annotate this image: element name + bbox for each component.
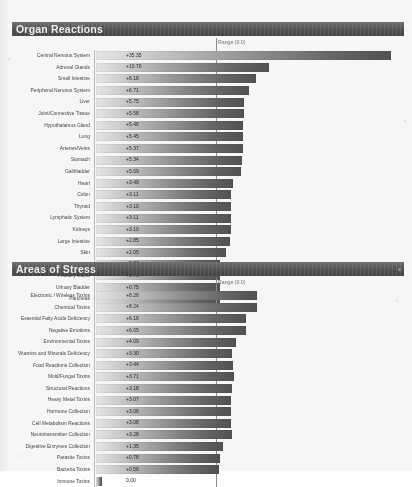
bar-track: +3.10 (96, 202, 404, 211)
bar-track: +3.71 (96, 372, 404, 381)
value-label: +5.58 (126, 111, 139, 117)
chart-row: Chemical Toxins+8.24 (12, 302, 404, 314)
value-bar (96, 396, 231, 405)
bar-track: +3.11 (96, 190, 404, 199)
value-label: +3.18 (126, 386, 139, 392)
range-caption: Range (0.0) (218, 279, 245, 285)
value-bar (96, 442, 223, 451)
bar-track: +2.05 (96, 248, 404, 257)
chart-row: Hormone Collection+3.06 (12, 406, 404, 418)
category-label: Digestive Enzymes Collection (12, 443, 90, 450)
chart-row: Skin+2.05 (12, 247, 404, 259)
bar-track: +10.70 (96, 63, 404, 72)
value-label: +2.05 (126, 250, 139, 256)
section-title: Areas of Stress (16, 262, 96, 276)
bar-track: +3.08 (96, 419, 404, 428)
category-label: Lung (12, 133, 90, 140)
chart-row: Liver+5.75 (12, 96, 404, 108)
value-label: +3.11 (126, 215, 139, 221)
value-bar (96, 361, 233, 370)
chart-row: Kidneys+3.10 (12, 224, 404, 236)
value-bar (96, 144, 243, 153)
stress-range-row: Range (0.0) (12, 278, 404, 290)
category-label: Food Reactions Collection (12, 362, 90, 369)
category-label: Chemical Toxins (12, 304, 90, 311)
category-label: Structural Reactions (12, 385, 90, 392)
value-bar (96, 291, 257, 300)
bar-track: +3.07 (96, 396, 404, 405)
category-label: Neurotransmitter Collection (12, 431, 90, 438)
category-label: Lymphatic System (12, 214, 90, 221)
bar-track: +8.24 (96, 303, 404, 312)
bar-track: +3.10 (96, 225, 404, 234)
chart-row: Central Nervous System+35.35 (12, 50, 404, 62)
category-label: Electronic / Wireless Toxins (12, 292, 90, 299)
scan-speck (396, 300, 398, 302)
value-bar (96, 86, 249, 95)
value-label: +4.09 (126, 339, 139, 345)
value-bar (96, 121, 243, 130)
category-label: Skin (12, 249, 90, 256)
areas-of-stress-section: Areas of Stress Range (0.0) Electronic /… (0, 262, 412, 487)
bar-track: +4.09 (96, 338, 404, 347)
chart-row: Essential Fatty Acids Deficiency+6.16 (12, 313, 404, 325)
value-label: +1.35 (126, 444, 139, 450)
chart-row: Mold/Fungal Toxins+3.71 (12, 371, 404, 383)
chart-row: Colon+3.11 (12, 189, 404, 201)
value-label: +3.28 (126, 432, 139, 438)
value-bar (96, 326, 246, 335)
bar-track: +5.75 (96, 98, 404, 107)
category-label: Negative Emotions (12, 327, 90, 334)
bar-track: +3.11 (96, 214, 404, 223)
category-label: Hormone Collection (12, 408, 90, 415)
organ-reactions-header: Organ Reactions (12, 22, 404, 36)
chart-row: Thyroid+3.10 (12, 201, 404, 213)
value-label: +3.10 (126, 227, 139, 233)
value-bar (96, 202, 231, 211)
value-bar (96, 74, 256, 83)
value-label: +8.26 (126, 293, 139, 299)
value-label: +5.45 (126, 134, 139, 140)
chart-row: Lung+5.45 (12, 131, 404, 143)
bar-track: +1.35 (96, 442, 404, 451)
value-label: +3.11 (126, 192, 139, 198)
value-bar (96, 156, 242, 165)
category-label: Peripheral Nervous System (12, 87, 90, 94)
value-bar (96, 314, 246, 323)
value-label: +5.09 (126, 169, 139, 175)
section-title: Organ Reactions (16, 22, 103, 36)
value-label: +3.07 (126, 397, 139, 403)
range-caption: Range (0.0) (218, 39, 245, 45)
chart-row: Environmental Toxins+4.09 (12, 336, 404, 348)
value-label: +5.34 (126, 157, 139, 163)
category-label: Bacteria Toxins (12, 466, 90, 473)
bar-track: +5.34 (96, 156, 404, 165)
chart-row: Heavy Metal Toxins+3.07 (12, 394, 404, 406)
scan-speck (398, 268, 401, 271)
value-bar (96, 214, 231, 223)
chart-row: Heart+3.49 (12, 178, 404, 190)
bar-track: +6.71 (96, 86, 404, 95)
value-bar (96, 98, 244, 107)
bar-track: +5.45 (96, 132, 404, 141)
value-label: +8.24 (126, 304, 139, 310)
value-bar (96, 372, 234, 381)
value-bar (96, 190, 231, 199)
category-label: Parasite Toxins (12, 454, 90, 461)
chart-row: Structural Reactions+3.18 (12, 383, 404, 395)
scan-speck (18, 455, 20, 457)
chart-row: Negative Emotions+6.05 (12, 325, 404, 337)
category-label: Thyroid (12, 203, 90, 210)
value-label: +8.18 (126, 76, 139, 82)
category-label: Essential Fatty Acids Deficiency (12, 315, 90, 322)
category-label: Arteries/Veins (12, 145, 90, 152)
category-label: Vitamins and Minerals Deficiency (12, 350, 90, 357)
value-label: +0.56 (126, 467, 139, 473)
value-bar (96, 109, 244, 118)
category-label: Central Nervous System (12, 52, 90, 59)
chart-row: Digestive Enzymes Collection+1.35 (12, 441, 404, 453)
bar-track: +6.05 (96, 326, 404, 335)
value-bar (96, 338, 236, 347)
value-label: +6.05 (126, 328, 139, 334)
